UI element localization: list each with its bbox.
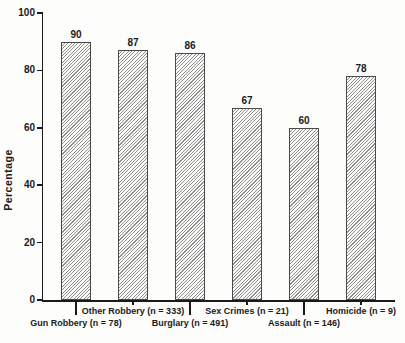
bar [289,128,319,300]
y-tick-mark [37,242,43,244]
screenshot-root: { "chart_data": { "type": "bar", "title"… [0,0,405,343]
bar [232,108,262,300]
y-tick-label: 20 [0,237,35,249]
x-tick-mark [132,300,134,305]
bar-value-label: 86 [184,40,195,51]
category-label: Assault (n = 146) [268,318,340,328]
y-tick-mark [37,299,43,301]
x-tick-mark [75,300,77,315]
bar-value-label: 60 [298,115,309,126]
y-tick-mark [37,12,43,14]
bar-value-label: 78 [355,63,366,74]
y-tick-label: 100 [0,7,35,19]
category-label: Homicide (n = 9) [326,306,396,316]
bar [61,42,91,300]
bar-value-label: 90 [70,29,81,40]
y-tick-mark [37,184,43,186]
y-tick-mark [37,127,43,129]
x-tick-mark [189,300,191,315]
y-tick-label: 80 [0,64,35,76]
y-tick-mark [37,70,43,72]
category-label: Other Robbery (n = 333) [82,306,184,316]
y-tick-label: 60 [0,122,35,134]
x-tick-mark [246,300,248,305]
x-tick-mark [303,300,305,315]
x-axis-line [42,300,396,302]
y-tick-label: 40 [0,179,35,191]
bar-chart: Percentage 02040608010090Gun Robbery (n … [0,0,405,343]
category-label: Sex Crimes (n = 21) [205,306,288,316]
bar-value-label: 87 [127,37,138,48]
x-tick-mark [360,300,362,305]
y-axis-line [42,13,44,302]
bar [175,53,205,300]
bar [346,76,376,300]
y-tick-label: 0 [0,294,35,306]
bar-value-label: 67 [241,95,252,106]
category-label: Gun Robbery (n = 78) [30,318,121,328]
category-label: Burglary (n = 491) [152,318,228,328]
bar [118,50,148,300]
